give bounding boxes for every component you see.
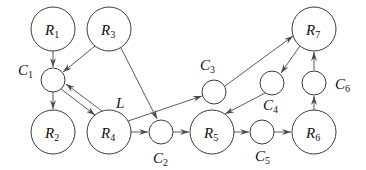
svg-text:C3: C3 bbox=[200, 57, 215, 75]
node-r2: R2 bbox=[31, 110, 75, 154]
svg-text:C2: C2 bbox=[153, 150, 168, 168]
node-c1: C1 bbox=[18, 62, 65, 92]
node-c4: C4 bbox=[260, 71, 284, 115]
edge-c4-r5 bbox=[225, 93, 265, 114]
node-r5: R5 bbox=[190, 110, 234, 154]
graph-diagram: R1 R3 C1 R2 R4 C2 R5 C5 R6 C3 C4 C6 bbox=[0, 0, 366, 170]
node-c6: C6 bbox=[302, 71, 350, 95]
svg-text:C6: C6 bbox=[335, 76, 350, 94]
edge-r7-c4 bbox=[281, 46, 300, 73]
svg-text:C1: C1 bbox=[18, 62, 33, 80]
node-r7: R7 bbox=[292, 7, 336, 51]
node-c5: C5 bbox=[250, 120, 274, 166]
node-r6: R6 bbox=[292, 110, 336, 154]
node-r4: R4 bbox=[87, 110, 131, 154]
svg-text:C4: C4 bbox=[263, 97, 278, 115]
node-c3: C3 bbox=[200, 57, 226, 104]
node-r1: R1 bbox=[31, 7, 75, 51]
edge-label-l: L bbox=[115, 95, 124, 111]
node-r3: R3 bbox=[87, 7, 131, 51]
svg-text:C5: C5 bbox=[255, 148, 270, 166]
edge-r3-c1 bbox=[63, 46, 95, 72]
edge-r3-c2 bbox=[121, 48, 157, 119]
edge-r4-c3 bbox=[128, 96, 202, 121]
node-c2: C2 bbox=[149, 120, 173, 168]
